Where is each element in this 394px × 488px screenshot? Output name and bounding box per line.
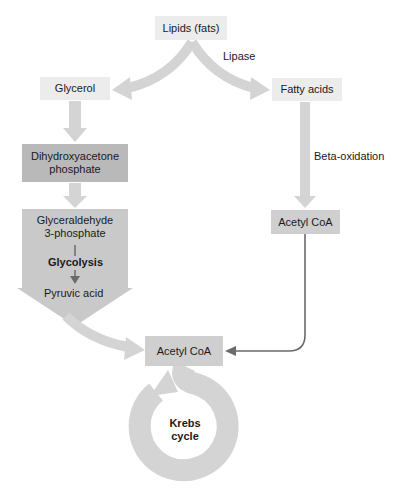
node-g3p-line1: Glyceraldehyde [37, 214, 113, 227]
label-beta-oxidation: Beta-oxidation [314, 150, 384, 162]
node-glycerol-label: Glycerol [55, 82, 95, 95]
node-krebs-cycle: Krebs cycle [155, 415, 215, 445]
node-acetyl-coa-right-label: Acetyl CoA [278, 216, 332, 229]
node-krebs-line2: cycle [171, 430, 199, 443]
arrow-pyruvate-to-acetyl-coa [66, 316, 145, 360]
node-fatty-acids-label: Fatty acids [280, 83, 333, 96]
node-acetyl-coa-right: Acetyl CoA [271, 210, 340, 234]
label-glycolysis: Glycolysis [48, 256, 103, 268]
node-krebs-line1: Krebs [169, 417, 200, 430]
node-lipids: Lipids (fats) [155, 16, 227, 40]
arrow-glycerol-to-dhap [63, 101, 87, 142]
node-acetyl-coa-center-label: Acetyl CoA [157, 345, 211, 358]
label-lipase: Lipase [223, 50, 255, 62]
arrow-dhap-to-g3p [63, 183, 87, 208]
node-dhap-line1: Dihydroxyacetone [31, 150, 119, 163]
node-g3p: Glyceraldehyde 3-phosphate [22, 212, 128, 242]
node-lipids-label: Lipids (fats) [163, 22, 220, 35]
node-dhap-line2: phosphate [49, 163, 100, 176]
node-acetyl-coa-center: Acetyl CoA [145, 336, 223, 366]
node-fatty-acids: Fatty acids [272, 78, 342, 101]
node-g3p-line2: 3-phosphate [44, 227, 105, 240]
arrow-beta-oxidation [294, 102, 316, 208]
arrow-acetyl-coa-right-to-center [225, 234, 305, 356]
arrow-lipids-to-glycerol [112, 42, 192, 100]
node-glycerol: Glycerol [40, 77, 110, 100]
node-pyruvic-acid: Pyruvic acid [44, 287, 103, 299]
node-dhap: Dihydroxyacetone phosphate [22, 144, 128, 182]
